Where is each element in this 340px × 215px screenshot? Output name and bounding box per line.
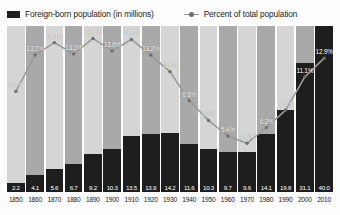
x-axis-tick-label: 1930 [161, 194, 179, 208]
x-axis-tick-label: 1870 [46, 194, 64, 208]
bar-value-label: 9.6 [238, 184, 256, 191]
column-background [26, 26, 44, 192]
x-axis-tick-label: 1860 [26, 194, 44, 208]
legend-item-bars: Foreign-born population (in millions) [7, 9, 154, 19]
bar-column: 13.5 [123, 26, 141, 192]
bar-column: 10.3 [200, 26, 218, 192]
x-axis-tick-label: 1890 [84, 194, 102, 208]
x-axis-tick-label: 1990 [277, 194, 295, 208]
bar-column: 14.1 [257, 26, 275, 192]
bar [277, 110, 295, 192]
bar-columns: 2.24.15.66.79.210.313.513.914.211.610.39… [7, 26, 333, 192]
x-axis-tick-label: 1920 [142, 194, 160, 208]
x-axis-tick-label: 1980 [257, 194, 275, 208]
x-axis-tick-label: 1960 [219, 194, 237, 208]
x-axis-tick-label: 1900 [103, 194, 121, 208]
bar-column: 40.0 [315, 26, 333, 192]
bar [296, 63, 314, 192]
bar-column: 31.1 [296, 26, 314, 192]
bar-column: 6.7 [65, 26, 83, 192]
bar-column: 13.9 [142, 26, 160, 192]
bar-value-label: 9.2 [84, 184, 102, 191]
x-axis-tick-label: 1880 [65, 194, 83, 208]
bar-value-label: 9.7 [219, 184, 237, 191]
bar [315, 26, 333, 192]
x-axis-tick-labels: 1850186018701880189019001910192019301940… [7, 194, 333, 208]
bar-value-label: 13.9 [142, 184, 160, 191]
bar-value-label: 4.1 [26, 184, 44, 191]
x-axis-tick-label: 1910 [123, 194, 141, 208]
x-axis-tick-label: 2000 [296, 194, 314, 208]
x-axis-tick-label: 1940 [180, 194, 198, 208]
bar-value-label: 31.1 [296, 184, 314, 191]
column-background [7, 26, 25, 192]
x-axis-tick-label: 1850 [7, 194, 25, 208]
x-axis-tick-label: 1970 [238, 194, 256, 208]
bar-column: 9.7 [219, 26, 237, 192]
chart-legend: Foreign-born population (in millions) Pe… [0, 6, 340, 22]
bar-value-label: 19.8 [277, 184, 295, 191]
bar-column: 19.8 [277, 26, 295, 192]
x-axis-tick-label: 1950 [200, 194, 218, 208]
bar-column: 11.6 [180, 26, 198, 192]
bar-value-label: 5.6 [46, 184, 64, 191]
bar-value-label: 10.3 [200, 184, 218, 191]
column-background [46, 26, 64, 192]
bar-column: 10.3 [103, 26, 121, 192]
bar-value-label: 40.0 [315, 184, 333, 191]
bar-value-label: 14.2 [161, 184, 179, 191]
legend-item-line: Percent of total population [184, 9, 298, 19]
bar-column: 9.6 [238, 26, 256, 192]
bar-value-label: 10.3 [103, 184, 121, 191]
bar-column: 9.2 [84, 26, 102, 192]
bar-column: 4.1 [26, 26, 44, 192]
bar-value-label: 6.7 [65, 184, 83, 191]
bar-value-label: 2.2 [7, 184, 25, 191]
bar-value-label: 11.6 [180, 184, 198, 191]
chart-root: Foreign-born population (in millions) Pe… [0, 0, 340, 215]
bar-column: 5.6 [46, 26, 64, 192]
bar-value-label: 13.5 [123, 184, 141, 191]
bar-swatch-icon [7, 11, 20, 18]
line-marker-icon [184, 10, 199, 18]
bar-value-label: 14.1 [257, 184, 275, 191]
legend-label-line: Percent of total population [204, 9, 298, 19]
bar-column: 2.2 [7, 26, 25, 192]
bar-column: 14.2 [161, 26, 179, 192]
plot-area: 2.24.15.66.79.210.313.513.914.211.610.39… [7, 26, 333, 192]
legend-label-bars: Foreign-born population (in millions) [25, 9, 154, 19]
x-axis-tick-label: 2010 [315, 194, 333, 208]
